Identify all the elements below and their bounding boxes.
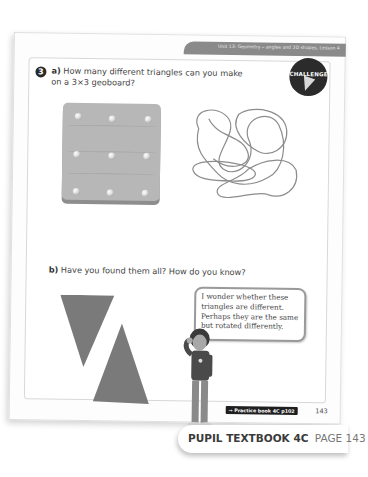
page-label: PAGE 143 xyxy=(315,432,366,444)
geoboard-peg xyxy=(73,188,80,195)
geoboard-peg xyxy=(143,153,150,160)
part-a-label: a) xyxy=(51,66,60,76)
textbook-page: Unit 13: Geometry – angles and 2D shapes… xyxy=(9,32,346,425)
part-b-text: Have you found them all? How do you know… xyxy=(61,265,246,278)
textbook-page-label: PUPIL TEXTBOOK 4C PAGE 143 xyxy=(178,425,348,453)
geoboard-peg xyxy=(107,189,114,196)
lightning-bolt-icon xyxy=(299,76,315,93)
geoboard-peg xyxy=(75,113,82,120)
part-a-text: How many different triangles can you mak… xyxy=(51,66,243,87)
part-b-label: b) xyxy=(49,265,59,275)
unit-label: Unit 13: Geometry – angles and 2D shapes… xyxy=(218,44,340,51)
question-frame: 3 a) How many different triangles can yo… xyxy=(24,57,331,403)
wood-grain xyxy=(67,125,157,127)
question-number-badge: 3 xyxy=(35,66,46,77)
geoboard-peg xyxy=(73,151,80,158)
practice-book-link: → Practice book 4C p102 xyxy=(225,406,297,415)
geoboard-peg xyxy=(109,115,116,122)
rubber-bands-image xyxy=(188,98,302,210)
triangle-pointing-up xyxy=(93,323,150,404)
question-part-a: a) How many different triangles can you … xyxy=(51,66,251,90)
wood-grain xyxy=(66,173,156,175)
unit-header-band: Unit 13: Geometry – angles and 2D shapes… xyxy=(184,41,346,56)
geoboard-image xyxy=(62,103,161,201)
child-character-image xyxy=(174,326,226,437)
geoboard-peg xyxy=(142,190,149,197)
challenge-badge: CHALLENGE xyxy=(289,58,328,97)
question-part-b: b) Have you found them all? How do you k… xyxy=(49,265,246,278)
geoboard-peg xyxy=(145,116,152,123)
book-label: PUPIL TEXTBOOK 4C xyxy=(188,432,308,444)
triangles-image xyxy=(59,295,161,416)
page-number: 143 xyxy=(315,407,328,415)
geoboard-peg xyxy=(108,152,115,159)
triangle-pointing-down xyxy=(59,295,114,368)
